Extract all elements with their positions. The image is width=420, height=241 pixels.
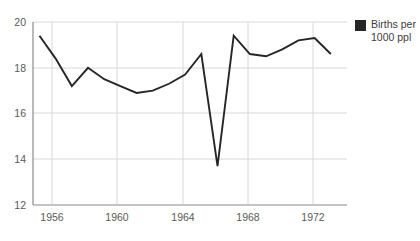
legend-label-line-2: 1000 ppl [371,31,416,44]
x-tick-label: 1968 [236,211,260,223]
x-tick-label: 1964 [171,211,195,223]
x-tick-label: 1960 [105,211,129,223]
y-axis-tick-labels: 20 18 16 14 12 [14,16,26,211]
data-series-line [39,36,330,166]
chart-legend: Births per 1000 ppl [355,18,416,44]
x-tick-label: 1972 [301,211,325,223]
y-tick-label: 18 [14,62,26,74]
chart-figure: Japanese Birth Rate 20 18 16 14 12 [0,0,420,241]
horizontal-gridlines [33,22,347,159]
legend-label: Births per 1000 ppl [371,18,416,44]
y-tick-label: 20 [14,16,26,28]
legend-label-line-1: Births per [371,18,416,31]
y-tick-label: 16 [14,107,26,119]
y-tick-label: 12 [14,199,26,211]
legend-color-swatch-icon [355,20,366,31]
x-axis-tick-labels: 1956 1960 1964 1968 1972 [40,211,325,223]
x-tick-label: 1956 [40,211,64,223]
y-tick-label: 14 [14,153,26,165]
